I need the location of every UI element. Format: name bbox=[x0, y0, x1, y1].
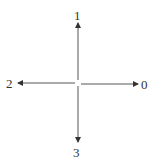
label-west: 2 bbox=[6, 77, 13, 90]
arrows-graphic bbox=[0, 0, 161, 163]
label-east: 0 bbox=[141, 78, 148, 91]
label-north: 1 bbox=[74, 9, 81, 22]
label-south: 3 bbox=[73, 146, 80, 159]
